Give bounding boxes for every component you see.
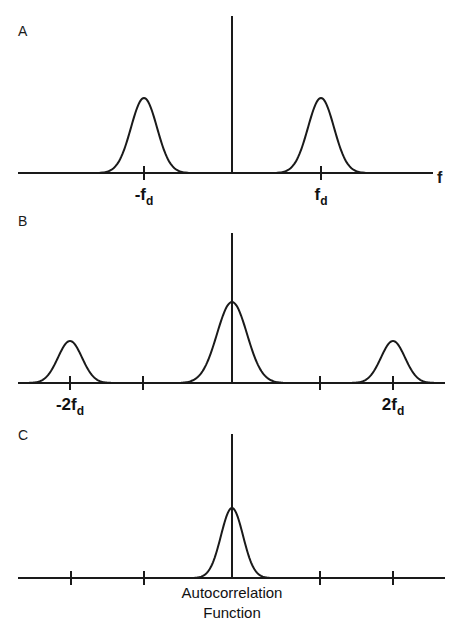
panel-label-b: B [18, 213, 27, 229]
spectral-figure: A-fdfdfB-2fd2fdC Autocorrelation Functio… [0, 0, 464, 629]
panel-a: A-fdfdf [18, 16, 443, 208]
tick-label: -fd [135, 185, 154, 208]
figure-caption: Autocorrelation Function [182, 584, 283, 621]
x-axis-label: f [437, 169, 443, 186]
tick-label-base: 2f [382, 395, 397, 414]
caption-line-2: Function [203, 604, 261, 621]
panel-b: B-2fd2fd [18, 213, 445, 418]
tick-label: -2fd [56, 395, 84, 418]
tick-label-base: -f [135, 185, 147, 204]
tick-label-base: -2f [56, 395, 77, 414]
tick-label: 2fd [382, 395, 404, 418]
panel-label-a: A [18, 23, 28, 39]
tick-label-subscript: d [397, 404, 404, 418]
panels-group: A-fdfdfB-2fd2fdC [18, 16, 445, 585]
tick-label-subscript: d [146, 194, 153, 208]
caption-line-1: Autocorrelation [182, 584, 283, 601]
tick-label: fd [314, 185, 327, 208]
tick-label-subscript: d [320, 194, 327, 208]
tick-label-subscript: d [77, 404, 84, 418]
panel-c: C [18, 427, 445, 585]
spectral-peak-curve [100, 98, 188, 173]
spectral-peak-curve [277, 98, 365, 173]
panel-label-c: C [18, 427, 28, 443]
